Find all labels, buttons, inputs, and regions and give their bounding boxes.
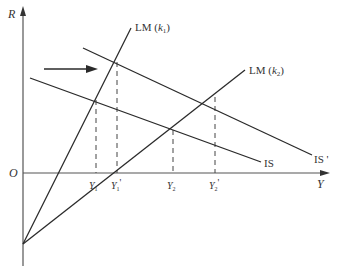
y-axis-label: R bbox=[7, 7, 16, 21]
dashed-guides bbox=[96, 62, 215, 173]
tick-y1: Y1 bbox=[89, 180, 98, 192]
lm-k2-curve bbox=[23, 70, 245, 244]
is-prime-label: IS ' bbox=[314, 153, 329, 165]
lm-k1-curve bbox=[23, 28, 131, 244]
tick-y1-prime: Y1' bbox=[111, 177, 122, 192]
tick-y2-prime: Y2' bbox=[209, 177, 220, 192]
tick-y2: Y2 bbox=[167, 180, 176, 192]
axes bbox=[20, 6, 330, 266]
is-curve bbox=[30, 78, 261, 162]
origin-label: O bbox=[9, 166, 18, 180]
is-lm-diagram: R Y O LM (k1) LM (k2) IS IS ' Y1 Y1' Y2 … bbox=[0, 0, 338, 272]
lm-k1-label: LM (k1) bbox=[135, 21, 170, 35]
lm-k2-label: LM (k2) bbox=[249, 64, 284, 78]
x-axis-arrow-icon bbox=[320, 170, 330, 176]
y-axis-arrow-icon bbox=[20, 6, 26, 16]
is-label: IS bbox=[264, 157, 274, 169]
x-axis-label: Y bbox=[317, 177, 325, 191]
shift-arrow-icon bbox=[44, 65, 98, 73]
